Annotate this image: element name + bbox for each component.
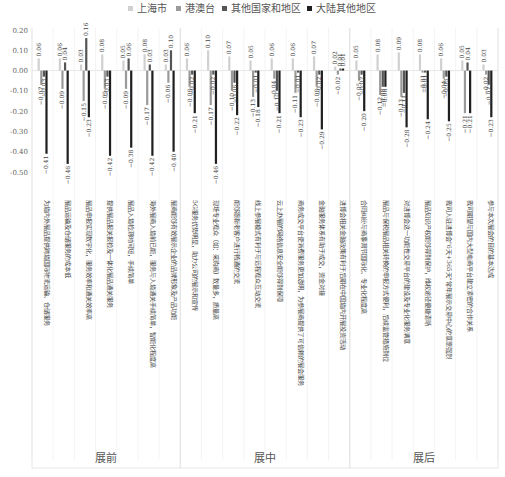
bar: [361, 71, 363, 75]
data-label: −0.06: [231, 85, 238, 104]
bar: [292, 58, 294, 70]
data-label: 0.10: [204, 35, 211, 49]
data-label: −0.11: [291, 95, 298, 113]
data-label: −0.17: [207, 107, 214, 126]
bar: [233, 71, 235, 83]
bar: [469, 71, 471, 114]
bar: [172, 71, 174, 152]
data-label: −0.42: [148, 158, 155, 177]
data-label: 0.03: [146, 49, 153, 63]
y-tick-label: -0.10: [10, 87, 28, 95]
category-label: 合同纠纷与商事调节国际化、专业化程度高: [360, 200, 368, 314]
bar: [255, 71, 257, 73]
bar: [445, 71, 447, 77]
data-label: −0.21: [275, 115, 282, 133]
data-label: −0.03: [442, 78, 449, 97]
category-label: 参与本次展会的目的基本达成: [487, 200, 495, 278]
data-label: 0.09: [395, 37, 402, 51]
bar: [313, 56, 315, 70]
category-label: 金融服务体系有助于成交，资金对接: [318, 200, 326, 296]
data-label: 0.08: [98, 39, 105, 53]
bar: [170, 50, 172, 70]
bar: [67, 71, 69, 164]
data-label: 0.16: [82, 23, 89, 37]
bar: [461, 60, 463, 70]
data-label: −0.07: [485, 87, 492, 106]
bar: [424, 71, 426, 73]
data-label: 0.07: [225, 41, 232, 55]
data-label: 0.06: [268, 43, 275, 57]
bar: [271, 58, 273, 70]
category-label: 5G服务优势明显，助力公司的展示和宣传: [191, 200, 199, 311]
bar: [186, 58, 188, 70]
bar: [43, 71, 45, 77]
bar: [297, 71, 299, 73]
data-label: 0.06: [125, 43, 132, 57]
bar: [273, 71, 275, 79]
data-labels: 0.06−0.07−0.03−0.410.06−0.090.04−0.460.0…: [35, 23, 495, 185]
data-label: −0.01: [294, 75, 301, 93]
category-label: 展品申报实现数字化，服务效率和通关效率高: [85, 200, 93, 320]
category-labels: 为境内外展品提供跨境国际物流运输、仓储服务展品运输及仓储服务的成本低展品申报实现…: [43, 200, 496, 386]
bar: [355, 60, 357, 70]
data-label: −0.46: [212, 166, 219, 185]
category-label: 能够跟新老客户进行畅通的交流: [233, 200, 241, 284]
bar: [342, 69, 344, 71]
bar: [382, 71, 384, 87]
data-label: −0.21: [191, 115, 198, 133]
data-label: −0.29: [318, 131, 325, 150]
y-tick-label: -0.40: [10, 148, 28, 156]
legend-swatch: [176, 6, 181, 11]
bar: [318, 71, 320, 75]
data-label: 0.06: [289, 43, 296, 57]
group-label: 展中: [254, 452, 276, 465]
data-label: 0.03: [77, 49, 84, 63]
data-label: −0.18: [254, 109, 261, 128]
bar: [128, 58, 130, 70]
bar: [400, 71, 402, 97]
data-label: −0.17: [143, 107, 150, 126]
category-label: 海外展商入境前已能，服务与入境通关手续简单，智能化程度高: [149, 200, 157, 368]
bar: [384, 71, 386, 87]
data-label: 0.04: [464, 47, 471, 61]
data-label: −0.08: [381, 89, 388, 108]
legend-swatch: [222, 6, 227, 11]
bar: [482, 64, 484, 70]
legend-label: 上海市: [137, 2, 167, 14]
category-label: 我司入驻进博会"6天+365天"常年展示交易中心的意愿强烈: [445, 200, 453, 359]
data-label: −0.10: [273, 93, 280, 112]
data-label: −0.02: [334, 76, 341, 95]
data-label: −0.11: [400, 95, 407, 113]
legend-swatch: [307, 6, 312, 11]
category-label: 展品与保税展品相关转换的申报方式便利，后续监管措施到位: [382, 200, 390, 362]
bar: [83, 71, 85, 101]
category-label: 展品入境检测时间短，手续简单: [127, 200, 135, 284]
legend-label: 大陆其他地区: [316, 2, 376, 14]
bar: [165, 64, 167, 70]
data-label: 0.06: [35, 43, 42, 57]
data-label: −0.02: [358, 76, 365, 95]
category-label: 提供展品报关报检及一体化展品通关服务: [106, 200, 114, 308]
data-label: −0.40: [170, 154, 177, 173]
category-label: 展品运输及仓储服务的成本低: [64, 200, 72, 278]
data-label: −0.09: [122, 91, 129, 110]
data-label: −0.28: [403, 129, 410, 148]
data-label: −0.23: [487, 119, 494, 138]
bar: [151, 71, 153, 156]
data-label: 0.08: [416, 39, 423, 53]
y-tick-label: -0.50: [10, 169, 28, 177]
legend: 上海市港澳台其他国家和地区大陆其他地区: [128, 2, 376, 14]
data-label: 0.05: [247, 45, 254, 59]
bar: [106, 71, 108, 77]
data-label: −0.20: [360, 113, 367, 132]
data-label: −0.46: [64, 166, 71, 185]
bar: [122, 60, 124, 70]
bar: [191, 71, 193, 75]
bar: [146, 71, 148, 105]
y-tick-label: 0.10: [12, 47, 28, 55]
category-label: 展商能够有效展示企业的品牌形象及产品功能: [170, 200, 178, 320]
bar: [419, 54, 421, 70]
data-label: −0.21: [466, 115, 473, 133]
category-label: 云上办展的网络信息安全能够得到保障: [276, 200, 284, 302]
data-label: −0.01: [421, 75, 428, 93]
